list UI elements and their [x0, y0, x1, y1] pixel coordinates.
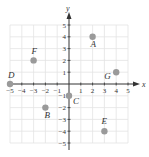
x-tick-label: 5	[126, 87, 130, 95]
point-f	[30, 57, 36, 63]
point-label-a: A	[90, 39, 97, 49]
point-label-e: E	[100, 116, 107, 126]
point-label-g: G	[104, 71, 111, 81]
y-tick-label: −1	[59, 92, 67, 100]
x-tick-label: −5	[6, 87, 14, 95]
y-tick-label: 1	[63, 69, 67, 77]
y-tick-label: 3	[63, 45, 67, 53]
point-label-b: B	[44, 110, 50, 120]
point-g	[113, 69, 119, 75]
x-tick-label: 1	[79, 87, 83, 95]
point-label-d: D	[7, 70, 15, 80]
x-tick-label: 3	[103, 87, 107, 95]
x-tick-label: −2	[42, 87, 50, 95]
axes: x y	[8, 4, 146, 150]
x-tick-label: −3	[30, 87, 38, 95]
point-e	[101, 128, 107, 134]
coordinate-plane: x y −5−4−3−2−11234554321−1−2−3−4−5 ABCDE…	[0, 0, 149, 157]
y-tick-label: 4	[63, 33, 67, 41]
y-tick-label: −5	[59, 140, 67, 148]
y-tick-label: −4	[59, 128, 67, 136]
x-axis-label: x	[141, 80, 146, 89]
y-tick-label: −3	[59, 116, 67, 124]
point-c	[66, 93, 72, 99]
y-axis-arrow-icon	[67, 12, 72, 19]
y-tick-label: 2	[63, 57, 67, 65]
y-tick-label: −2	[59, 104, 67, 112]
x-axis-arrow-icon	[133, 82, 140, 87]
point-label-c: C	[73, 96, 80, 106]
point-label-f: F	[31, 46, 38, 56]
x-tick-label: 2	[91, 87, 95, 95]
y-tick-label: 5	[63, 22, 67, 30]
point-d	[7, 81, 13, 87]
y-axis-label: y	[65, 4, 70, 13]
x-tick-label: 4	[114, 87, 118, 95]
x-tick-label: −4	[18, 87, 26, 95]
